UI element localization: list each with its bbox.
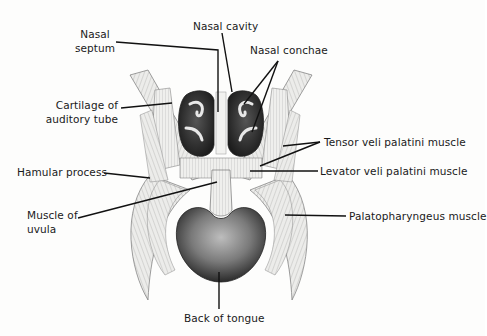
- label-tensor-veli-palatini: Tensor veli palatini muscle: [324, 135, 466, 149]
- label-nasal-conchae: Nasal conchae: [250, 43, 328, 57]
- label-levator-veli-palatini: Levator veli palatini muscle: [320, 164, 468, 178]
- label-nasal-septum: Nasal septum: [74, 27, 116, 55]
- back-of-tongue: [176, 208, 265, 282]
- leader-palatopharyngeus: [285, 215, 346, 216]
- label-palatopharyngeus: Palatopharyngeus muscle: [349, 209, 487, 223]
- label-back-of-tongue: Back of tongue: [184, 311, 265, 325]
- label-hamular-process: Hamular process: [17, 165, 107, 179]
- leader-hamular: [104, 173, 150, 178]
- label-muscle-of-uvula: Muscle of uvula: [27, 208, 78, 236]
- leader-nasal-cavity: [222, 33, 232, 92]
- label-uvula-line1: Muscle of: [27, 208, 78, 222]
- nasal-cavities: [179, 91, 264, 156]
- label-uvula-line2: uvula: [27, 222, 78, 236]
- label-cartilage-auditory-tube: Cartilage of auditory tube: [40, 98, 118, 126]
- label-nasal-septum-line2: septum: [74, 41, 116, 55]
- label-nasal-cavity: Nasal cavity: [193, 19, 258, 33]
- label-cartilage-line2: auditory tube: [40, 112, 118, 126]
- soft-palate: [180, 158, 262, 216]
- label-cartilage-line1: Cartilage of: [40, 98, 118, 112]
- label-nasal-septum-line1: Nasal: [74, 27, 116, 41]
